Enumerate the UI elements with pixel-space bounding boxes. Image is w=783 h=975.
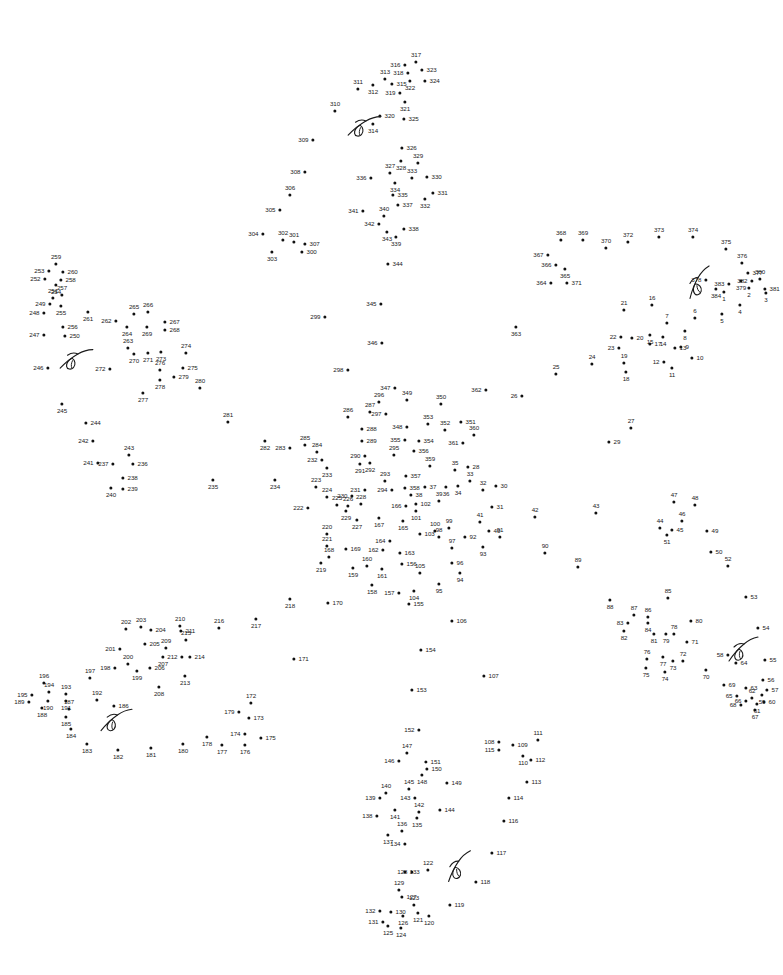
dot-292 bbox=[368, 461, 371, 464]
dot-382 bbox=[750, 279, 753, 282]
dot-label-282: 282 bbox=[260, 445, 270, 451]
dot-2 bbox=[747, 286, 750, 289]
dot-358 bbox=[403, 486, 406, 489]
dot-label-341: 341 bbox=[348, 208, 358, 214]
dot-label-54: 54 bbox=[763, 625, 770, 631]
dot-33 bbox=[468, 479, 471, 482]
dot-label-111: 111 bbox=[533, 730, 542, 736]
dot-label-144: 144 bbox=[445, 807, 455, 813]
dot-label-142: 142 bbox=[414, 802, 424, 808]
dot-368 bbox=[559, 238, 562, 241]
dot-label-329: 329 bbox=[413, 153, 423, 159]
dot-label-220: 220 bbox=[322, 524, 332, 530]
dot-label-25: 25 bbox=[553, 364, 560, 370]
dot-242 bbox=[91, 439, 94, 442]
dot-label-60: 60 bbox=[769, 699, 776, 705]
dot-181 bbox=[149, 746, 152, 749]
dot-149 bbox=[445, 781, 448, 784]
dot-193 bbox=[64, 692, 67, 695]
dot-label-176: 176 bbox=[240, 749, 250, 755]
leaf-sprig-mid-right-icon bbox=[727, 635, 761, 663]
dot-174 bbox=[243, 732, 246, 735]
dot-210 bbox=[178, 624, 181, 627]
dot-71 bbox=[685, 640, 688, 643]
dot-label-286: 286 bbox=[343, 407, 353, 413]
dot-272 bbox=[108, 367, 111, 370]
dot-label-291: 291 bbox=[355, 468, 365, 474]
dot-label-269: 269 bbox=[142, 331, 152, 337]
dot-213 bbox=[183, 674, 186, 677]
dot-175 bbox=[259, 736, 262, 739]
dot-182 bbox=[116, 748, 119, 751]
dot-217 bbox=[254, 617, 257, 620]
dot-370 bbox=[604, 246, 607, 249]
dot-270 bbox=[132, 352, 135, 355]
dot-label-233: 233 bbox=[322, 472, 332, 478]
dot-label-30: 30 bbox=[501, 483, 508, 489]
dot-label-213: 213 bbox=[180, 680, 190, 686]
dot-label-119: 119 bbox=[455, 902, 465, 908]
dot-321 bbox=[403, 100, 406, 103]
dot-69 bbox=[722, 683, 725, 686]
dot-96 bbox=[450, 561, 453, 564]
dot-328 bbox=[399, 159, 402, 162]
dot-156 bbox=[400, 562, 403, 565]
dot-369 bbox=[581, 238, 584, 241]
dot-257 bbox=[60, 293, 63, 296]
dot-label-238: 238 bbox=[128, 475, 138, 481]
dot-130 bbox=[389, 910, 392, 913]
dot-16 bbox=[650, 303, 653, 306]
dot-label-313: 313 bbox=[380, 69, 390, 75]
dot-label-274: 274 bbox=[181, 343, 191, 349]
dot-356 bbox=[412, 449, 415, 452]
dot-label-382: 382 bbox=[737, 278, 747, 284]
dot-label-92: 92 bbox=[470, 534, 477, 540]
dot-label-197: 197 bbox=[85, 668, 95, 674]
dot-label-71: 71 bbox=[692, 639, 699, 645]
dot-153 bbox=[410, 688, 413, 691]
dot-label-297: 297 bbox=[371, 411, 381, 417]
dot-352 bbox=[443, 428, 446, 431]
dot-label-191: 191 bbox=[61, 705, 71, 711]
dot-label-102: 102 bbox=[421, 501, 431, 507]
dot-label-321: 321 bbox=[400, 106, 410, 112]
dot-280 bbox=[198, 386, 201, 389]
dot-label-152: 152 bbox=[404, 727, 414, 733]
dot-332 bbox=[423, 197, 426, 200]
dot-29 bbox=[607, 440, 610, 443]
dot-label-63: 63 bbox=[751, 685, 758, 691]
dot-label-190: 190 bbox=[43, 705, 53, 711]
dot-label-165: 165 bbox=[398, 525, 408, 531]
dot-label-84: 84 bbox=[645, 627, 652, 633]
dot-273 bbox=[159, 350, 162, 353]
dot-101 bbox=[414, 509, 417, 512]
dot-107 bbox=[482, 674, 485, 677]
dot-label-358: 358 bbox=[410, 485, 420, 491]
dot-label-222: 222 bbox=[293, 505, 303, 511]
dot-label-373: 373 bbox=[654, 227, 664, 233]
dot-label-79: 79 bbox=[663, 638, 670, 644]
dot-277 bbox=[141, 391, 144, 394]
dot-322 bbox=[408, 79, 411, 82]
dot-label-236: 236 bbox=[138, 461, 148, 467]
dot-284 bbox=[315, 450, 318, 453]
dot-243 bbox=[127, 453, 130, 456]
dot-330 bbox=[425, 175, 428, 178]
dot-label-11: 11 bbox=[669, 372, 675, 378]
dot-label-199: 199 bbox=[132, 675, 142, 681]
dot-362 bbox=[484, 388, 487, 391]
dot-7 bbox=[665, 321, 668, 324]
dot-118 bbox=[474, 880, 477, 883]
dot-79 bbox=[664, 632, 667, 635]
dot-label-257: 257 bbox=[57, 285, 67, 291]
dot-207 bbox=[161, 655, 164, 658]
dot-235 bbox=[211, 478, 214, 481]
dot-label-83: 83 bbox=[617, 620, 624, 626]
dot-label-237: 237 bbox=[98, 461, 108, 467]
dot-label-270: 270 bbox=[129, 358, 139, 364]
dot-80 bbox=[689, 619, 692, 622]
dot-316 bbox=[403, 63, 406, 66]
dot-150 bbox=[425, 767, 428, 770]
dot-76 bbox=[645, 657, 648, 660]
dot-label-166: 166 bbox=[391, 503, 401, 509]
